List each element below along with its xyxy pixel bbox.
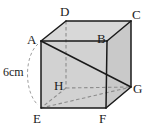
vertex-label-G: G — [133, 82, 142, 95]
vertex-label-F: F — [99, 112, 106, 125]
dimension-label-6cm: 6cm — [3, 66, 24, 78]
vertex-label-H: H — [54, 79, 63, 92]
vertex-label-B: B — [97, 32, 106, 45]
vertex-label-A: A — [27, 33, 36, 46]
dimension-bracket-arc — [28, 44, 39, 105]
face-front-ABFE — [41, 41, 107, 108]
vertex-label-C: C — [132, 8, 141, 21]
cube-diagram: A B C D E F G H 6cm — [0, 0, 147, 130]
vertex-label-E: E — [33, 112, 41, 125]
vertex-label-D: D — [60, 5, 69, 18]
